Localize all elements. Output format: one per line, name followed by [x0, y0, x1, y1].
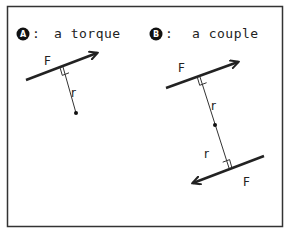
- lower-radius-label: r: [204, 147, 209, 161]
- badge-b-label: B: [153, 30, 159, 39]
- upper-force-label: F: [178, 61, 185, 75]
- panel-b-couple: B : a couple F r r F: [150, 26, 265, 189]
- force-arrow: [26, 53, 97, 80]
- center-point: [213, 123, 217, 127]
- panel-a-colon: :: [32, 26, 40, 41]
- badge-a-label: A: [20, 30, 27, 39]
- pivot-point: [74, 111, 78, 115]
- panel-b-colon: :: [165, 26, 173, 41]
- panel-a-torque: A : a torque F r: [17, 26, 121, 115]
- lower-force-label: F: [243, 175, 250, 189]
- torque-couple-diagram: A : a torque F r B : a couple F r r F: [0, 0, 287, 232]
- force-label: F: [44, 54, 51, 68]
- radius-label: r: [71, 86, 76, 100]
- panel-a-title: a torque: [54, 26, 121, 41]
- upper-radius-label: r: [211, 99, 216, 113]
- panel-b-title: a couple: [192, 26, 259, 41]
